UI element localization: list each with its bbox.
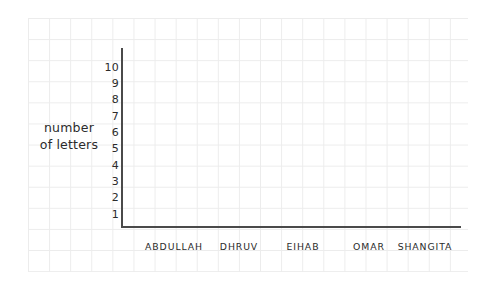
y-tick-label-5: 5 [97,143,119,154]
x-category-label-omar: OMAR [350,241,388,252]
x-category-label-dhruv: DHRUV [215,241,263,252]
x-category-label-abdullah: ABDULLAH [141,241,207,252]
y-axis-line [121,48,123,228]
y-tick-label-8: 8 [97,94,119,105]
y-tick-label-9: 9 [97,78,119,89]
plot-area: number of letters 10 9 8 7 6 5 4 3 2 1 A… [0,0,492,289]
x-axis-line [121,226,461,228]
y-tick-label-7: 7 [97,111,119,122]
y-tick-label-6: 6 [97,127,119,138]
y-tick-label-3: 3 [97,176,119,187]
x-category-label-shangita: SHANGITA [394,241,456,252]
y-tick-label-4: 4 [97,160,119,171]
y-tick-label-1: 1 [97,209,119,220]
chart-screenshot: number of letters 10 9 8 7 6 5 4 3 2 1 A… [0,0,492,289]
x-category-label-eihab: EIHAB [282,241,324,252]
y-tick-label-2: 2 [97,192,119,203]
y-tick-label-10: 10 [97,62,119,73]
